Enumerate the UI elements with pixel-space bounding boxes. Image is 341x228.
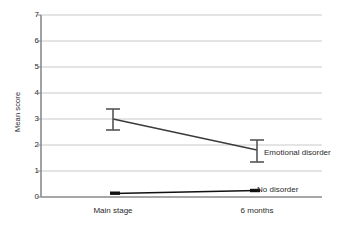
x-tick-label-main-stage: Main stage: [83, 206, 143, 215]
error-bar-emotional-6-months: [250, 140, 264, 162]
x-tick-label-6-months: 6 months: [227, 206, 287, 215]
chart-container: Mean score 7 6 5 4 3 2 1 0: [0, 0, 341, 228]
marker-no-disorder-main-stage: [110, 192, 120, 195]
series-label-emotional-disorder: Emotional disorder: [264, 148, 331, 157]
series-line-no-disorder: [113, 191, 257, 194]
series-label-no-disorder: No disorder: [257, 185, 298, 194]
